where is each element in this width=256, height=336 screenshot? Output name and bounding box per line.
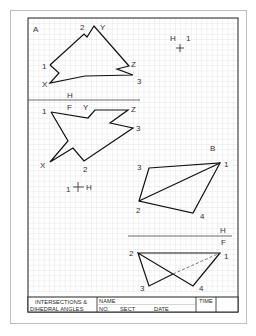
label-f-2: 2 <box>129 249 134 258</box>
worksheet-sheet: A 2 Y 1 X Z 3 H H 1 1 F Y Z 3 X 2 1 H B <box>0 0 256 336</box>
time-field-label: TIME <box>199 298 213 304</box>
label-h-1: 1 <box>42 107 47 116</box>
title-block: INTERSECTIONS & DIHEDRAL ANGLES NAME NO.… <box>28 297 238 312</box>
label-b-4: 4 <box>200 212 205 221</box>
label-a-3: 3 <box>137 77 142 86</box>
label-h-f: F <box>67 103 72 112</box>
label-a-2: 2 <box>80 23 85 32</box>
label-f-3: 3 <box>140 284 145 293</box>
label-f-1: 1 <box>224 252 229 261</box>
label-h-x: X <box>40 161 46 170</box>
ref-top-1: 1 <box>186 34 191 43</box>
label-b-1: 1 <box>224 160 229 169</box>
label-a-z: Z <box>131 60 136 69</box>
no-field-label: NO. <box>99 306 110 312</box>
label-b-3: 3 <box>137 163 142 172</box>
fold-label-f-2: F <box>221 238 226 247</box>
ref-mid-1: 1 <box>66 185 71 194</box>
name-field-label: NAME <box>99 298 116 304</box>
fold-label-h-2: H <box>220 226 226 235</box>
label-a-x: X <box>42 80 48 89</box>
sect-field-label: SECT <box>120 306 136 312</box>
date-field-label: DATE <box>154 306 169 312</box>
label-h-y: Y <box>83 103 89 112</box>
label-a-y: Y <box>100 23 106 32</box>
ref-top-h: H <box>170 34 176 43</box>
label-f-4: 4 <box>199 284 204 293</box>
label-h-z: Z <box>131 105 136 114</box>
view-label-b: B <box>210 144 215 153</box>
label-b-2: 2 <box>136 206 141 215</box>
title-line-2: DIHEDRAL ANGLES <box>30 306 84 312</box>
ref-mid-h: H <box>86 183 92 192</box>
label-a-1: 1 <box>42 62 47 71</box>
label-h-3: 3 <box>136 124 141 133</box>
fold-label-h-1: H <box>67 91 73 100</box>
title-line-1: INTERSECTIONS & <box>35 299 87 305</box>
view-label-a: A <box>33 25 39 34</box>
label-h-2: 2 <box>83 165 88 174</box>
